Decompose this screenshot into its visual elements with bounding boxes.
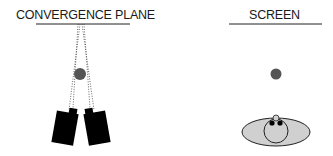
viewer-icon bbox=[242, 115, 310, 146]
sight-lines bbox=[69, 24, 94, 110]
screen-dot-icon bbox=[271, 69, 282, 80]
left-camera-icon bbox=[51, 106, 79, 146]
stereo-diagram bbox=[0, 0, 333, 156]
object-dot-icon bbox=[74, 68, 86, 80]
right-camera-icon bbox=[83, 106, 111, 146]
